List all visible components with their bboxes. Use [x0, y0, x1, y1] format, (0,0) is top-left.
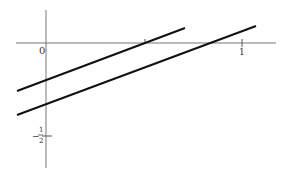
lower-line: [17, 26, 256, 115]
origin-label: 0: [39, 45, 45, 56]
y-tick-neg-half-denominator: 2: [39, 137, 43, 145]
y-tick-neg-half-numerator: 1: [39, 126, 43, 134]
upper-line: [17, 28, 185, 91]
x-tick-one-label: 1: [239, 47, 245, 57]
diagram-canvas: 0 1 − 1 2: [0, 0, 296, 178]
